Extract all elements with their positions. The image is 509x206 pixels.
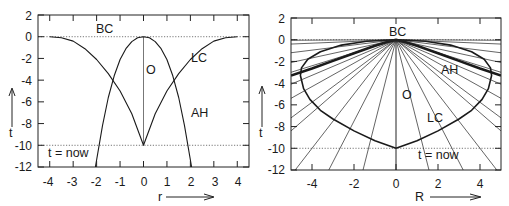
label-t-now: t = now bbox=[48, 146, 90, 160]
y-tick-label: -6 bbox=[274, 98, 285, 112]
y-tick-label: 2 bbox=[25, 9, 32, 23]
y-tick-label: 0 bbox=[25, 30, 32, 44]
y-tick-label: -12 bbox=[268, 163, 286, 177]
x-tick-label: 2 bbox=[435, 177, 442, 191]
x-tick-label: 3 bbox=[212, 175, 219, 189]
x-tick-label: 0 bbox=[141, 175, 148, 189]
right-y-axis-label: t bbox=[259, 86, 265, 140]
worldline bbox=[291, 40, 396, 131]
y-tick-label: -12 bbox=[15, 160, 33, 174]
worldline bbox=[396, 40, 501, 131]
left-y-axis-label: t bbox=[9, 88, 15, 140]
left-plot: 2 0 -2 -4 -6 -8 -10 -12 -4 -3 -2 -1 0 1 … bbox=[9, 9, 249, 204]
left-x-axis-label: r bbox=[158, 190, 214, 204]
worldline bbox=[363, 40, 396, 170]
x-tick-label: 4 bbox=[235, 175, 242, 189]
label-o: O bbox=[146, 63, 156, 77]
left-x-tick-labels: -4 -3 -2 -1 0 1 2 3 4 bbox=[43, 175, 242, 189]
right-x-tick-labels: -4 -2 0 2 4 bbox=[307, 177, 484, 191]
label-bc: BC bbox=[389, 25, 406, 39]
y-tick-label: -10 bbox=[15, 139, 33, 153]
x-tick-label: 1 bbox=[164, 175, 171, 189]
x-tick-label: -3 bbox=[67, 175, 78, 189]
y-axis-label: t bbox=[259, 126, 263, 140]
right-plot: 2 0 -2 -4 -6 -8 -10 -12 -4 -2 0 2 4 BC A… bbox=[259, 12, 501, 204]
right-x-axis-label: R bbox=[415, 190, 481, 204]
y-tick-label: -8 bbox=[21, 117, 32, 131]
y-tick-label: -8 bbox=[274, 120, 285, 134]
x-axis-label: r bbox=[158, 190, 162, 204]
y-tick-label: -4 bbox=[21, 74, 32, 88]
y-axis-label: t bbox=[9, 126, 13, 140]
y-tick-label: -2 bbox=[274, 55, 285, 69]
right-y-tick-labels: 2 0 -2 -4 -6 -8 -10 -12 bbox=[268, 12, 286, 177]
y-tick-label: -4 bbox=[274, 77, 285, 91]
label-bc: BC bbox=[96, 22, 113, 36]
left-y-tick-labels: 2 0 -2 -4 -6 -8 -10 -12 bbox=[15, 9, 33, 174]
y-tick-label: -2 bbox=[21, 52, 32, 66]
label-ah: AH bbox=[441, 63, 458, 77]
x-tick-label: -1 bbox=[115, 175, 126, 189]
x-tick-label: -4 bbox=[307, 177, 318, 191]
x-tick-label: 4 bbox=[477, 177, 484, 191]
worldline bbox=[295, 40, 396, 170]
label-t-now: t = now bbox=[418, 148, 460, 162]
x-axis-label: R bbox=[415, 190, 424, 204]
x-tick-label: 2 bbox=[188, 175, 195, 189]
label-lc: LC bbox=[427, 111, 443, 125]
label-ah: AH bbox=[191, 106, 208, 120]
y-tick-label: -10 bbox=[268, 142, 286, 156]
y-tick-label: -6 bbox=[21, 95, 32, 109]
right-plot-curves bbox=[291, 40, 501, 170]
x-tick-label: -2 bbox=[349, 177, 360, 191]
figure: 2 0 -2 -4 -6 -8 -10 -12 -4 -3 -2 -1 0 1 … bbox=[0, 0, 509, 206]
label-lc: LC bbox=[191, 51, 207, 65]
x-tick-label: 0 bbox=[393, 177, 400, 191]
y-tick-label: 0 bbox=[278, 33, 285, 47]
x-tick-label: -2 bbox=[91, 175, 102, 189]
x-tick-label: -4 bbox=[43, 175, 54, 189]
label-o: O bbox=[402, 88, 412, 102]
y-tick-label: 2 bbox=[278, 12, 285, 26]
